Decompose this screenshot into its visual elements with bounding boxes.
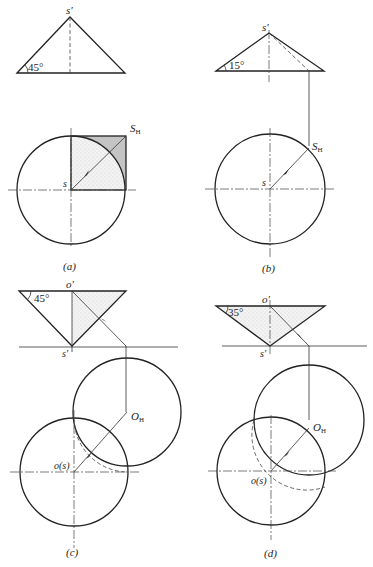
caption-a: (a): [63, 260, 76, 273]
shadow-label-a: SH: [130, 122, 141, 136]
apex-label-c: s′: [62, 348, 69, 359]
angle-label-b: 15°: [229, 59, 244, 71]
panel-d: o′ s′ 35° o(s) OH (d): [208, 293, 367, 560]
angle-label-c: 45°: [34, 292, 49, 304]
panel-c: o′ s′ 45° o(s) OH (c): [10, 278, 181, 559]
cone-elevation-d: [216, 300, 367, 420]
caption-b: (b): [262, 262, 275, 275]
light-ray-b: [270, 148, 309, 189]
shadow-label-b: SH: [312, 140, 323, 154]
arrow-icon-b: [283, 169, 289, 175]
angle-label-d: 35°: [228, 306, 243, 318]
apex-label-a: s′: [66, 4, 73, 16]
shadow-label-c: OH: [131, 410, 144, 424]
caption-d: (d): [264, 547, 277, 560]
caption-c: (c): [66, 546, 79, 559]
top-label-d: o′: [262, 293, 271, 305]
center-label-a: s: [63, 178, 67, 189]
cone-elevation-c: [19, 291, 178, 412]
center-label-b: s: [262, 177, 266, 188]
apex-label-b: s′: [262, 21, 269, 33]
arrow-icon-d-elev: [296, 333, 302, 339]
cone-plan-a: [8, 128, 136, 248]
center-label-d: o(s): [251, 475, 267, 487]
top-label-c: o′: [66, 278, 75, 290]
panel-a: s′ 45° s SH (a): [8, 4, 141, 273]
panel-b: s′ 15° s SH (b): [205, 21, 336, 275]
shadow-label-d: OH: [313, 421, 326, 435]
center-label-c: o(s): [54, 460, 70, 472]
light-ray-d: [271, 428, 309, 471]
cone-plan-d: [208, 365, 364, 540]
apex-label-d: s′: [260, 348, 267, 359]
cone-plan-c: [10, 358, 181, 548]
cone-shadow-diagram: s′ 45° s SH (a) s′ 15°: [0, 0, 373, 567]
angle-label-a: 45°: [28, 61, 43, 73]
